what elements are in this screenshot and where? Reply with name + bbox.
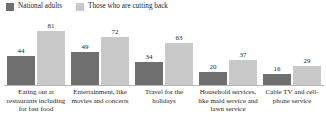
category-label: Cable TV and cell-phone service [260,88,324,129]
bar-group: 44 81 [4,18,68,85]
bar-national-adults [7,56,35,85]
chart-legend: National adults Those who are cutting ba… [6,1,168,13]
bar-value-label: 63 [175,34,182,42]
bar-chart: National adults Those who are cutting ba… [0,0,326,129]
bar-value-label: 49 [81,43,88,51]
legend-entry-national-adults: National adults [6,3,62,11]
bar-column: 16 [263,18,291,85]
bar-column: 81 [37,18,65,85]
bar-national-adults [199,72,227,85]
category-label: Entertainment, like movies and concerts [68,88,132,129]
category-label: Travel for the holidays [132,88,196,129]
bar-column: 34 [135,18,163,85]
bar-national-adults [71,52,99,85]
bar-national-adults [135,62,163,85]
axis-baseline [4,85,324,86]
bar-value-label: 29 [303,57,310,65]
plot-area: 44 81 49 72 34 [0,18,326,86]
bar-cutting-back [229,60,257,85]
bar-column: 37 [229,18,257,85]
bar-value-label: 81 [47,22,54,30]
bar-groups: 44 81 49 72 34 [4,18,324,85]
bar-column: 44 [7,18,35,85]
bar-value-label: 20 [209,63,216,71]
bar-column: 72 [101,18,129,85]
legend-label: National adults [18,3,62,10]
legend-entry-cutting-back: Those who are cutting back [76,3,168,11]
bar-group: 34 63 [132,18,196,85]
bar-column: 63 [165,18,193,85]
bar-column: 49 [71,18,99,85]
bar-cutting-back [101,37,129,85]
bar-value-label: 37 [239,51,246,59]
bar-column: 20 [199,18,227,85]
bar-value-label: 34 [145,53,152,61]
bar-cutting-back [165,43,193,85]
legend-swatch-icon [6,3,14,11]
bar-cutting-back [293,66,321,85]
bar-group: 16 29 [260,18,324,85]
bar-cutting-back [37,31,65,85]
category-label: Household services, like maid service an… [196,88,260,129]
bar-value-label: 44 [17,47,24,55]
bar-column: 29 [293,18,321,85]
bar-group: 49 72 [68,18,132,85]
legend-swatch-icon [76,3,84,11]
bar-national-adults [263,74,291,85]
bar-value-label: 72 [111,28,118,36]
bar-group: 20 37 [196,18,260,85]
category-axis-labels: Eating out at restaurants including for … [4,88,324,129]
category-label: Eating out at restaurants including for … [4,88,68,129]
bar-value-label: 16 [273,65,280,73]
legend-label: Those who are cutting back [88,3,168,10]
